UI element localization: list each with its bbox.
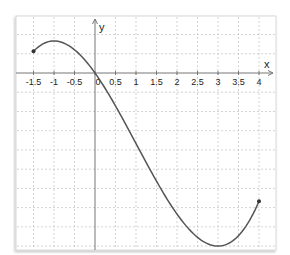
x-tick-label: 1.5: [150, 77, 163, 87]
x-tick-label: 0.5: [109, 77, 122, 87]
x-tick-label: -0.5: [67, 77, 83, 87]
x-tick-label: 4: [256, 77, 261, 87]
x-axis-label: x: [264, 58, 270, 70]
function-graph: -1.5-1-0.500.511.522.533.54 x y: [0, 0, 290, 255]
y-axis-label: y: [99, 21, 105, 33]
x-tick-label: 1: [133, 77, 138, 87]
x-tick-label: 3: [215, 77, 220, 87]
x-tick-label: 3.5: [232, 77, 245, 87]
x-tick-label: 2: [174, 77, 179, 87]
end-point: [257, 199, 261, 203]
x-tick-label: 2.5: [191, 77, 204, 87]
x-tick-label: -1.5: [26, 77, 42, 87]
start-point: [32, 49, 36, 53]
x-tick-label: -1: [50, 77, 58, 87]
plot-frame: [16, 16, 276, 250]
